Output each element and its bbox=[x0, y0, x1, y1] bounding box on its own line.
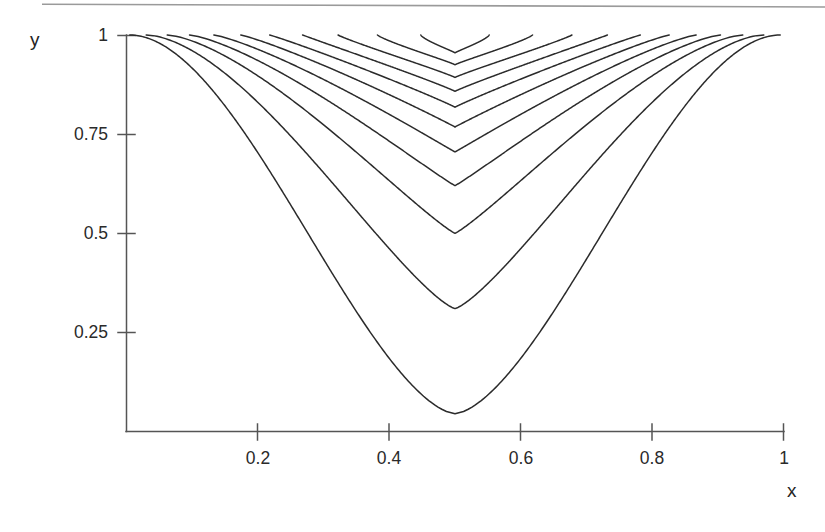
y-tick-label-025: 0.25 bbox=[38, 322, 108, 343]
x-axis-title: x bbox=[787, 480, 797, 502]
contour-lines-group bbox=[130, 35, 780, 414]
contour-figure: y x 1 0.75 0.5 0.25 0.2 0.4 0.6 0.8 1 bbox=[0, 0, 825, 532]
contour-line bbox=[190, 35, 721, 186]
y-tick-label-1: 1 bbox=[58, 25, 108, 46]
contour-line bbox=[241, 35, 669, 127]
x-tick-label-06: 0.6 bbox=[501, 448, 541, 469]
contour-line bbox=[270, 35, 641, 107]
x-tick-label-08: 0.8 bbox=[632, 448, 672, 469]
x-tick-label-1: 1 bbox=[771, 448, 797, 469]
y-tick-label-05: 0.5 bbox=[48, 223, 108, 244]
x-tick-label-04: 0.4 bbox=[369, 448, 409, 469]
y-tick-label-075: 0.75 bbox=[38, 124, 108, 145]
contour-line bbox=[377, 35, 532, 65]
x-tick-label-02: 0.2 bbox=[238, 448, 278, 469]
contour-plot-canvas bbox=[0, 0, 825, 532]
contour-line bbox=[338, 35, 572, 77]
contour-line bbox=[146, 35, 764, 309]
y-axis-title: y bbox=[30, 29, 40, 51]
contour-line bbox=[421, 35, 489, 53]
